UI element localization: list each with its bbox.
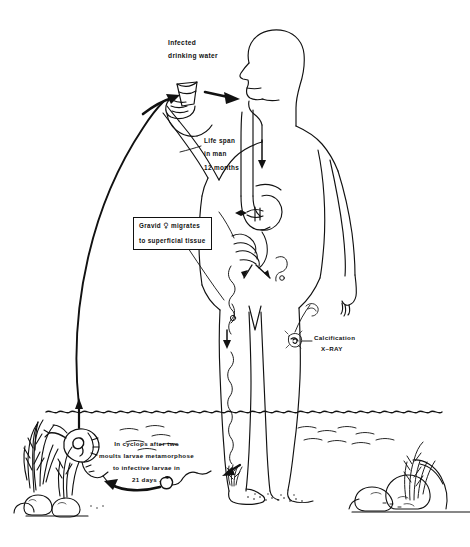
aquatic-plants-left [24, 420, 58, 492]
worm-in-leg [228, 304, 235, 464]
label-cyclops-line3: to infective larvae in [99, 464, 194, 473]
label-gravid-female-box: Gravid ♀ migrates to superficial tissue [133, 217, 212, 250]
gravid-leader-2 [219, 212, 234, 238]
rocks-left [14, 495, 88, 517]
transmission-curve [76, 101, 164, 406]
label-lifespan-line2: in man [204, 149, 239, 158]
nodule-upper [306, 304, 318, 316]
label-gravid-line2: to superficial tissue [139, 236, 206, 245]
arrow-to-mouth [205, 92, 240, 104]
label-calcification-line2: X–RAY [314, 345, 355, 354]
intestines [232, 232, 267, 268]
life-cycle-figure: Infected drinking water Life span in man… [0, 0, 470, 547]
female-symbol-icon: ♀ [163, 221, 169, 230]
label-lifespan-line1: Life span [204, 136, 239, 145]
label-life-span: Life span in man 12 months [204, 136, 239, 172]
label-infected-water-line1: Infected [168, 38, 218, 48]
label-gravid-suffix: migrates [171, 222, 200, 229]
migration-arrows [241, 265, 270, 278]
head-profile [240, 30, 304, 142]
label-cyclops-line4: 21 days . [99, 476, 194, 485]
label-infected-water-line2: drinking water [168, 51, 218, 61]
adult-worm-abdomen [235, 207, 263, 221]
label-cyclops-line1: In cyclops after two [99, 440, 194, 449]
skin-blister [285, 331, 302, 348]
label-infected-drinking-water: Infected drinking water [168, 38, 218, 60]
label-gravid-prefix: Gravid [139, 222, 161, 229]
plants-right [404, 442, 435, 500]
gravid-leader [188, 248, 224, 300]
sediment [90, 493, 303, 508]
aquatic-plants-left2 [56, 447, 79, 498]
figure-artwork [0, 0, 470, 547]
label-gravid-line1: Gravid ♀ migrates [139, 221, 206, 232]
label-cyclops-development: In cyclops after two moults larvae metam… [99, 440, 194, 485]
worm-right-pelvis [276, 257, 287, 281]
water-surface [46, 411, 442, 413]
label-calcification-line1: Calcification [314, 334, 355, 343]
label-calcification: Calcification X–RAY [314, 334, 355, 354]
label-cyclops-line2: moults larvae metamorphose [99, 452, 194, 461]
label-lifespan-line3: 12 months [204, 163, 239, 172]
